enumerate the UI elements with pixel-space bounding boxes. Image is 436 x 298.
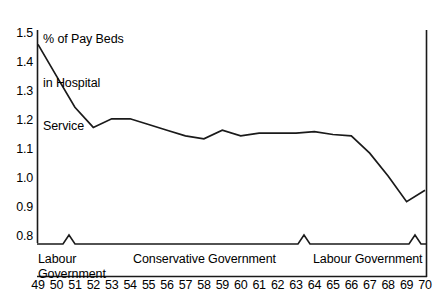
chart-title-line-3: Service [43,119,124,134]
y-tick-0-8: 0.8 [3,230,33,243]
y-tick-1-1: 1.1 [3,143,33,156]
band-label-labour-1-line-1: Labour [38,252,106,267]
y-tick-1-4: 1.4 [3,56,33,69]
y-tick-1-2: 1.2 [3,114,33,127]
band-label-conservative-government: Conservative Government [133,252,276,267]
band-label-labour-government-2: Labour Government [313,252,422,267]
y-tick-1-0: 1.0 [3,172,33,185]
pay-beds-line-chart: % of Pay Beds in Hospital Service 1.5 1.… [0,0,436,298]
x-axis-tick-labels: 49 50 51 52 53 54 55 56 57 58 59 60 61 6… [0,279,436,298]
y-tick-1-5: 1.5 [3,27,33,40]
chart-title: % of Pay Beds in Hospital Service [43,3,124,163]
y-tick-0-9: 0.9 [3,201,33,214]
y-axis-tick-labels: 1.5 1.4 1.3 1.2 1.1 1.0 0.9 0.8 [0,0,33,298]
y-tick-1-3: 1.3 [3,85,33,98]
band-label-labour-government-1: Labour Government [38,252,106,281]
x-tick-70: 70 [414,279,436,292]
chart-title-line-1: % of Pay Beds [43,32,124,47]
chart-title-line-2: in Hospital [43,76,124,91]
government-band-divider [37,235,427,244]
